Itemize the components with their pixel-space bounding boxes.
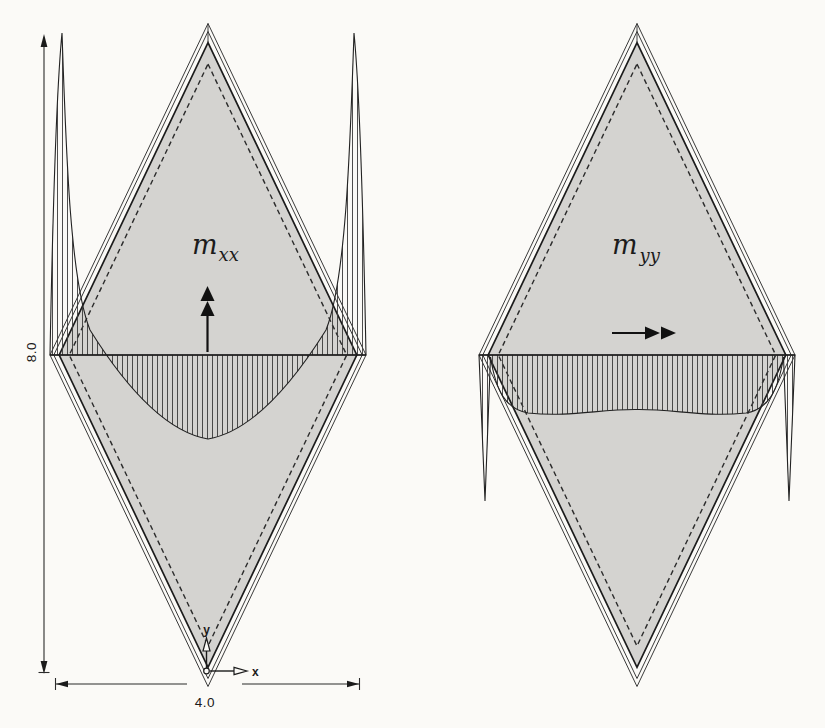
- right-plate-diagram: myy: [479, 24, 795, 687]
- x-axis-label: x: [252, 665, 259, 679]
- width-dimension: 4.0: [56, 678, 360, 710]
- figure-canvas: mxx myy 8.0: [0, 0, 825, 728]
- height-dim-arrow-top: [41, 34, 48, 47]
- height-dimension: 8.0: [24, 34, 50, 674]
- width-dim-arrow-left: [56, 681, 68, 687]
- x-axis-arrow-icon: [234, 667, 247, 674]
- origin-point-icon: [204, 668, 210, 674]
- left-plate-diagram: mxx: [50, 24, 366, 687]
- y-axis-label: y: [203, 623, 210, 637]
- width-dimension-value: 4.0: [195, 695, 215, 710]
- height-dimension-value: 8.0: [24, 342, 39, 362]
- moment-distribution-figure: mxx myy 8.0: [0, 0, 825, 728]
- width-dim-arrow-right: [347, 681, 359, 687]
